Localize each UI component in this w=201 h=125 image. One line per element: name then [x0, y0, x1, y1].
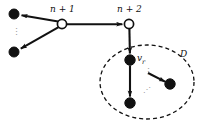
filled-node-d-bottom	[125, 98, 135, 108]
label-v-r: vr	[137, 54, 145, 65]
open-node-n-plus-1	[57, 19, 66, 28]
filled-node-d-right	[165, 79, 175, 89]
label-v-r-sub: r	[142, 58, 145, 66]
edge-n1-to-bottom-left	[21, 27, 59, 48]
label-n-plus-2: n + 2	[117, 5, 142, 14]
ellipsis-left-vertical: ⋮	[12, 28, 21, 37]
label-region-d: D	[180, 50, 187, 59]
figure-canvas: n + 1 n + 2 vr D ⋮ ⋮ ⋰	[0, 0, 201, 125]
filled-node-v-r	[125, 55, 135, 65]
filled-node-bottom-left	[9, 47, 19, 57]
edge-n2-to-vr	[129, 29, 130, 53]
diagram-svg	[0, 0, 201, 125]
ellipsis-d-vertical: ⋮	[144, 68, 153, 77]
edge-n1-to-top-left	[22, 15, 59, 21]
ellipsis-d-diagonal: ⋰	[143, 86, 151, 94]
filled-node-top-left	[9, 9, 19, 19]
label-n-plus-1: n + 1	[50, 5, 75, 14]
open-node-n-plus-2	[124, 19, 133, 28]
